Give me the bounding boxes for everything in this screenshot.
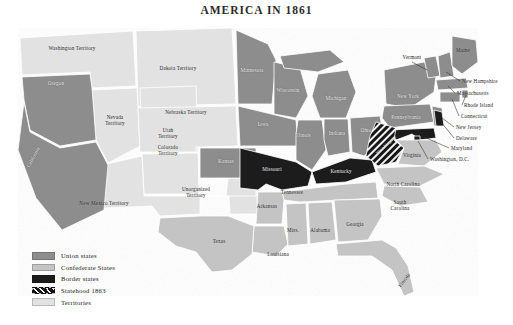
legend-label-confederate: Confederate States <box>61 264 115 271</box>
illinois-shape <box>296 120 326 170</box>
label-new-mexico-territory: New Mexico Territory <box>79 200 128 206</box>
label-oregon: Oregon <box>48 80 64 86</box>
label-nevada-territory: NevadaTerritory <box>105 114 125 126</box>
legend-swatch-border <box>32 275 55 283</box>
legend-item-territories: Territories <box>32 296 115 308</box>
indiana-shape <box>324 119 350 156</box>
label-pennsylvania: Pennsylvania <box>391 114 420 120</box>
label-arkansas: Arkansas <box>257 203 277 209</box>
label-texas: Texas <box>213 238 226 244</box>
legend-label-union: Union states <box>61 252 97 259</box>
label-washington-territory: Washington Territory <box>48 45 95 51</box>
legend-label-statehood-1863: Statehood 1863 <box>61 287 106 294</box>
label-new-jersey: New Jersey <box>456 124 481 130</box>
legend-item-statehood-1863: Statehood 1863 <box>32 285 115 297</box>
label-colorado-territory: ColoradoTerritory <box>158 144 178 156</box>
texas-shape <box>158 216 254 272</box>
label-south-carolina: SouthCarolina <box>391 199 410 211</box>
label-vermont: Vermont <box>403 54 422 60</box>
label-connecticut: Connecticut <box>461 113 488 119</box>
label-minnesota: Minnesota <box>240 67 263 73</box>
label-ohio: Ohio <box>361 127 372 133</box>
label-illinois: Illinois <box>295 132 311 138</box>
label-mississippi: Miss. <box>287 227 299 233</box>
label-unorganized-territory: UnorganizedTerritory <box>182 186 210 198</box>
label-michigan: Michigan <box>326 95 347 101</box>
label-alabama: Alabama <box>310 227 330 233</box>
label-nebraska-territory: Nebraska Territory <box>165 109 207 115</box>
label-north-carolina: North Carolina <box>386 181 419 187</box>
legend-item-union: Union states <box>32 250 115 262</box>
michigan-upper-shape <box>280 50 344 72</box>
legend-label-border: Border states <box>61 275 99 282</box>
label-missouri: Missouri <box>262 166 282 172</box>
legend-swatch-statehood-1863 <box>32 287 55 295</box>
label-washington-dc: Washington, D.C. <box>430 156 469 162</box>
label-dakota-territory: Dakota Territory <box>160 65 197 71</box>
label-maryland: Maryland <box>451 145 472 151</box>
label-iowa: Iowa <box>258 121 269 127</box>
legend-label-territories: Territories <box>61 299 91 306</box>
label-louisiana: Louisiana <box>267 251 289 257</box>
label-virginia: Virginia <box>403 152 421 158</box>
legend: Union states Confederate States Border s… <box>32 250 115 308</box>
label-massachusetts: Massachusetts <box>457 90 489 96</box>
label-tennessee: Tennessee <box>281 189 303 195</box>
legend-swatch-union <box>32 252 55 260</box>
map-page: AMERICA IN 1861 <box>0 0 513 325</box>
legend-swatch-confederate <box>32 264 55 272</box>
label-kentucky: Kentucky <box>330 168 351 174</box>
label-wisconsin: Wisconsin <box>277 87 300 93</box>
label-kansas: Kansas <box>218 158 234 164</box>
label-maine: Maine <box>456 47 470 53</box>
legend-item-border: Border states <box>32 273 115 285</box>
label-new-york: New York <box>397 93 419 99</box>
maine-shape <box>452 36 478 74</box>
label-rhode-island: Rhode Island <box>464 102 493 108</box>
alabama-shape <box>308 202 336 244</box>
label-delaware: Delaware <box>456 135 477 141</box>
mississippi-shape <box>286 203 308 246</box>
legend-item-confederate: Confederate States <box>32 262 115 274</box>
label-new-hampshire: New Hampshire <box>462 78 498 84</box>
legend-swatch-territories <box>32 298 55 306</box>
label-indiana: Indiana <box>329 130 346 136</box>
label-utah-territory: UtahTerritory <box>158 127 178 139</box>
label-georgia: Georgia <box>346 221 364 227</box>
